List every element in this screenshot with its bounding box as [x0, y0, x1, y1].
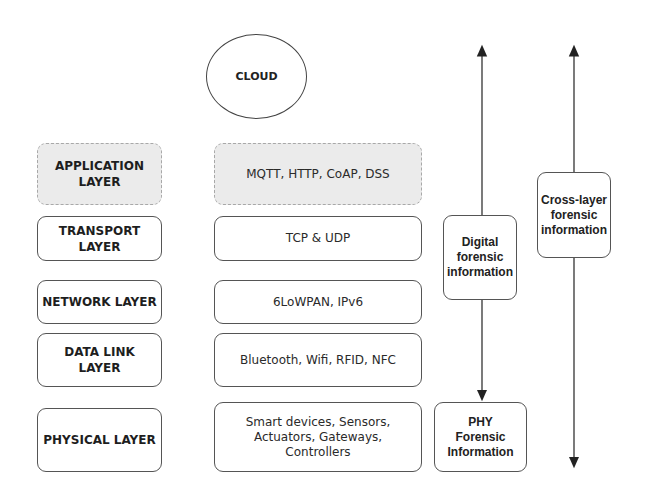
transport-layer-box: TRANSPORT LAYER — [37, 216, 162, 261]
application-layer-box: APPLICATION LAYER — [37, 143, 162, 205]
application-layer-label: APPLICATION LAYER — [55, 158, 144, 190]
cloud-label: CLOUD — [235, 70, 277, 83]
data-link-layer-label: DATA LINK LAYER — [64, 344, 135, 376]
physical-devices-label: Smart devices, Sensors, Actuators, Gatew… — [246, 415, 391, 460]
transport-protocols-box: TCP & UDP — [214, 216, 422, 261]
transport-layer-label: TRANSPORT LAYER — [59, 223, 140, 255]
data-link-protocols-box: Bluetooth, Wifi, RFID, NFC — [214, 333, 422, 387]
digital-forensic-label: Digital forensic information — [447, 235, 513, 280]
cross-layer-forensic-label: Cross-layer forensic information — [541, 193, 607, 238]
data-link-layer-box: DATA LINK LAYER — [37, 333, 162, 387]
application-protocols-label: MQTT, HTTP, CoAP, DSS — [246, 167, 389, 182]
network-layer-label: NETWORK LAYER — [42, 294, 157, 310]
application-protocols-box: MQTT, HTTP, CoAP, DSS — [214, 143, 422, 205]
physical-devices-box: Smart devices, Sensors, Actuators, Gatew… — [214, 402, 422, 472]
transport-protocols-label: TCP & UDP — [286, 231, 351, 246]
network-protocols-box: 6LoWPAN, IPv6 — [214, 280, 422, 324]
cross-layer-forensic-box: Cross-layer forensic information — [537, 172, 611, 258]
physical-layer-label: PHYSICAL LAYER — [43, 432, 155, 448]
digital-forensic-box: Digital forensic information — [443, 215, 517, 300]
physical-layer-box: PHYSICAL LAYER — [37, 408, 162, 472]
network-layer-box: NETWORK LAYER — [37, 280, 162, 324]
phy-forensic-box: PHY Forensic Information — [434, 402, 527, 472]
phy-forensic-label: PHY Forensic Information — [448, 415, 514, 460]
cloud-node: CLOUD — [206, 34, 307, 119]
data-link-protocols-label: Bluetooth, Wifi, RFID, NFC — [240, 353, 396, 368]
network-protocols-label: 6LoWPAN, IPv6 — [273, 295, 363, 310]
